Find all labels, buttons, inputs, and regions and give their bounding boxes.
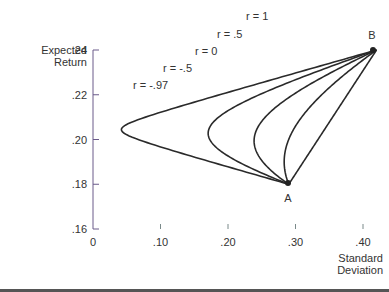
y-tick-label: .24	[72, 44, 87, 56]
y-axis-ticks: .16.18.20.22.24	[72, 44, 99, 235]
x-axis-ticks: 0.10.20.30.40	[90, 224, 371, 248]
x-tick-label: .40	[355, 236, 370, 248]
x-tick-label: .20	[220, 236, 235, 248]
curve-r=-.97	[121, 50, 376, 184]
y-tick-label: .22	[72, 89, 87, 101]
y-axis-label-line2: Return	[54, 56, 87, 68]
point-b-marker	[370, 47, 376, 53]
y-tick-label: .16	[72, 223, 87, 235]
curve-r=-.5	[208, 50, 376, 184]
y-tick-label: .20	[72, 134, 87, 146]
y-tick-label: .18	[72, 178, 87, 190]
point-b-label: B	[368, 29, 375, 41]
label-r-0.5: r = .5	[217, 28, 242, 40]
x-tick-label: .30	[288, 236, 303, 248]
curve-r=0	[254, 50, 376, 184]
label-r-1: r = 1	[246, 10, 268, 22]
correlation-curves	[121, 50, 376, 184]
point-a-label: A	[284, 192, 292, 204]
efficient-frontier-chart: Expected Return .16.18.20.22.24 0.10.20.…	[0, 0, 389, 292]
x-axis-label-line2: Deviation	[337, 264, 383, 276]
x-axis-label-line1: Standard	[338, 252, 383, 264]
label-r-0: r = 0	[195, 45, 217, 57]
label-r-neg0.97: r = -.97	[133, 79, 168, 91]
label-r-neg0.5: r = -.5	[163, 62, 192, 74]
x-tick-label: 0	[90, 236, 96, 248]
point-a-marker	[285, 180, 291, 186]
x-tick-label: .10	[153, 236, 168, 248]
